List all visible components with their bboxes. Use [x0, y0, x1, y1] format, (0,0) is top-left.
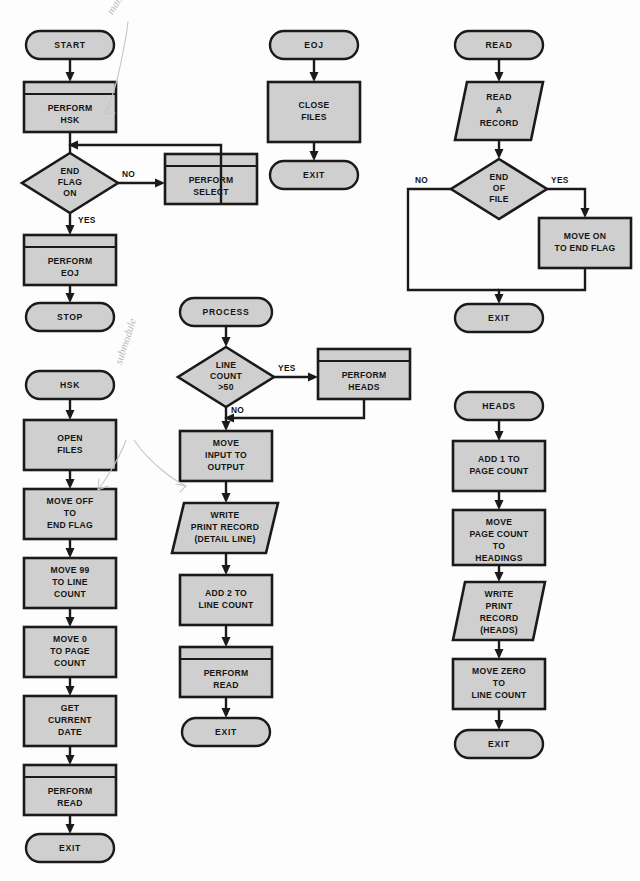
- arrowhead: [66, 225, 75, 235]
- node-move-on-line2: TO END FLAG: [555, 243, 616, 253]
- node-move-page-count-to-headings[interactable]: MOVE PAGE COUNT TO HEADINGS: [453, 510, 545, 565]
- node-write-heads-line4: (HEADS): [480, 625, 518, 635]
- node-add-1-to-page-count[interactable]: ADD 1 TO PAGE COUNT: [453, 441, 545, 491]
- arrowhead: [155, 179, 165, 188]
- node-read-label: READ: [485, 40, 512, 50]
- node-add-2-to-line-count[interactable]: ADD 2 TO LINE COUNT: [180, 575, 272, 625]
- node-add1-line2: PAGE COUNT: [469, 466, 529, 476]
- node-stop-label: STOP: [57, 312, 83, 322]
- node-line-count-gt-50[interactable]: LINE COUNT >50: [178, 347, 274, 407]
- node-perform-hsk[interactable]: PERFORM HSK: [24, 82, 116, 132]
- node-hsk-perform-read[interactable]: PERFORM READ: [24, 765, 116, 815]
- annotation-submodule-arrow2-shaft: [134, 440, 186, 486]
- node-process-perform-read[interactable]: PERFORM READ: [180, 647, 272, 697]
- node-close-files-line2: FILES: [301, 112, 327, 122]
- node-write-heads-line3: RECORD: [480, 613, 519, 623]
- arrowhead: [310, 151, 319, 161]
- node-perform-eoj[interactable]: PERFORM EOJ: [24, 235, 116, 285]
- node-end-flag-on[interactable]: END FLAG ON: [22, 153, 118, 213]
- edge-label-no-read: NO: [415, 175, 428, 185]
- node-linecount-line2: COUNT: [210, 371, 242, 381]
- node-perform-select-line2: SELECT: [193, 187, 229, 197]
- arrowhead: [222, 493, 231, 503]
- node-move-zero-to-line-count[interactable]: MOVE ZERO TO LINE COUNT: [453, 659, 545, 709]
- node-perform-heads-line2: HEADS: [348, 382, 379, 392]
- node-open-files-line1: OPEN: [57, 433, 82, 443]
- connector-move-on-to-exit: [499, 268, 585, 298]
- node-move99-line3: COUNT: [54, 589, 86, 599]
- node-read-record-line2: A: [496, 105, 502, 115]
- annotation-submodule-arrow2-head: [176, 484, 186, 492]
- node-read-exit[interactable]: EXIT: [455, 304, 543, 332]
- node-hsk-label: HSK: [60, 380, 80, 390]
- node-move0-line2: TO PAGE: [50, 646, 90, 656]
- arrowhead: [66, 410, 75, 420]
- arrowhead: [495, 572, 504, 582]
- node-read-a-record[interactable]: READ A RECORD: [455, 82, 543, 140]
- node-end-of-file[interactable]: END OF FILE: [451, 159, 547, 219]
- node-movepage-line4: HEADINGS: [475, 553, 522, 563]
- node-start[interactable]: START: [26, 31, 114, 59]
- node-endoffile-line3: FILE: [489, 194, 509, 204]
- node-perform-select[interactable]: PERFORM SELECT: [165, 154, 257, 204]
- arrowhead: [495, 720, 504, 730]
- node-move-off-to-end-flag[interactable]: MOVE OFF TO END FLAG: [24, 489, 116, 539]
- node-movezero-line3: LINE COUNT: [471, 690, 527, 700]
- node-write-detail-line3: (DETAIL LINE): [194, 534, 255, 544]
- flowchart-canvas: START PERFORM HSK END FLAG ON: [0, 0, 640, 881]
- arrowhead: [66, 479, 75, 489]
- node-move-0-to-page-count[interactable]: MOVE 0 TO PAGE COUNT: [24, 627, 116, 677]
- node-movezero-line1: MOVE ZERO: [472, 666, 526, 676]
- module-process: PROCESS LINE COUNT >50 YES PERFORM HEADS: [172, 298, 410, 746]
- node-perform-heads[interactable]: PERFORM HEADS: [318, 349, 410, 399]
- node-start-label: START: [54, 40, 86, 50]
- edge-label-yes-read: YES: [551, 175, 569, 185]
- node-eoj-terminal[interactable]: EOJ: [270, 31, 358, 59]
- node-open-files-line2: FILES: [57, 445, 83, 455]
- arrowhead: [66, 617, 75, 627]
- node-end-flag-on-line1: END: [61, 166, 80, 176]
- node-open-files[interactable]: OPEN FILES: [24, 420, 116, 470]
- node-get-current-date[interactable]: GET CURRENT DATE: [24, 696, 116, 746]
- node-perform-eoj-line1: PERFORM: [48, 256, 93, 266]
- node-move-input-line3: OUTPUT: [208, 462, 245, 472]
- node-read-exit-label: EXIT: [488, 313, 510, 323]
- node-hsk-exit[interactable]: EXIT: [26, 834, 114, 862]
- node-eoj-exit[interactable]: EXIT: [270, 161, 358, 189]
- arrowhead: [66, 72, 75, 82]
- arrowhead: [66, 548, 75, 558]
- module-main: START PERFORM HSK END FLAG ON: [22, 31, 257, 331]
- node-linecount-line3: >50: [218, 382, 233, 392]
- node-hsk-terminal[interactable]: HSK: [26, 371, 114, 399]
- node-move-off-line3: END FLAG: [47, 520, 93, 530]
- node-endoffile-line2: OF: [493, 183, 505, 193]
- node-write-print-record-detail[interactable]: WRITE PRINT RECORD (DETAIL LINE): [172, 503, 278, 553]
- node-write-print-record-heads[interactable]: WRITE PRINT RECORD (HEADS): [453, 582, 545, 640]
- node-write-detail-line1: WRITE: [211, 510, 240, 520]
- node-move-on-to-end-flag[interactable]: MOVE ON TO END FLAG: [539, 218, 631, 268]
- node-stop[interactable]: STOP: [26, 303, 114, 331]
- node-eoj-exit-label: EXIT: [303, 170, 325, 180]
- node-process-label: PROCESS: [203, 307, 250, 317]
- node-move-input-line1: MOVE: [213, 438, 239, 448]
- edge-label-yes-process: YES: [278, 363, 296, 373]
- node-read-terminal[interactable]: READ: [455, 31, 543, 59]
- node-heads-exit[interactable]: EXIT: [455, 730, 543, 758]
- node-move-99-to-line-count[interactable]: MOVE 99 TO LINE COUNT: [24, 558, 116, 608]
- node-process-exit[interactable]: EXIT: [182, 718, 270, 746]
- edge-label-yes-main: YES: [78, 215, 96, 225]
- node-process-terminal[interactable]: PROCESS: [180, 298, 272, 326]
- node-move-input-to-output[interactable]: MOVE INPUT TO OUTPUT: [180, 431, 272, 481]
- node-write-detail-line2: PRINT RECORD: [191, 522, 259, 532]
- node-heads-label: HEADS: [482, 401, 516, 411]
- node-heads-terminal[interactable]: HEADS: [455, 392, 543, 420]
- node-close-files-line1: CLOSE: [299, 100, 330, 110]
- module-hsk: HSK OPEN FILES MOVE OFF TO END FLAG MO: [24, 371, 116, 862]
- arrowhead: [222, 565, 231, 575]
- node-move0-line1: MOVE 0: [53, 634, 87, 644]
- arrowhead: [222, 637, 231, 647]
- node-close-files[interactable]: CLOSE FILES: [268, 82, 360, 142]
- connector-select-loopback: [76, 145, 221, 154]
- node-movepage-line3: TO: [493, 541, 505, 551]
- node-move-off-line2: TO: [64, 508, 76, 518]
